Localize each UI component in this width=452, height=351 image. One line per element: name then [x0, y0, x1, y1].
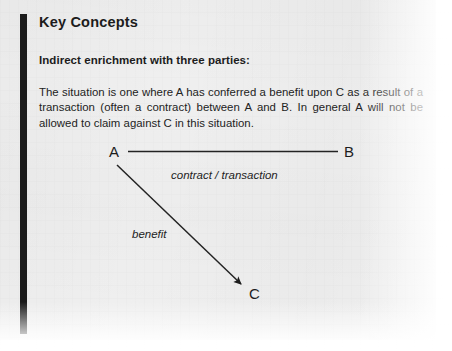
scanned-page: Key Concepts Indirect enrichment with th…: [0, 0, 452, 351]
diagram-node-c: C: [249, 286, 260, 301]
page-title: Key Concepts: [39, 12, 425, 32]
diagram-edge-label-benefit: benefit: [132, 227, 167, 241]
callout-content: Key Concepts Indirect enrichment with th…: [39, 12, 425, 131]
diagram-node-b: B: [344, 144, 354, 159]
callout-left-rule: [20, 14, 27, 334]
diagram-edge-label-contract: contract / transaction: [171, 168, 278, 182]
diagram-node-a: A: [109, 144, 119, 159]
callout-body-text: The situation is one where A has conferr…: [39, 68, 423, 131]
callout-subtitle: Indirect enrichment with three parties:: [39, 32, 425, 68]
